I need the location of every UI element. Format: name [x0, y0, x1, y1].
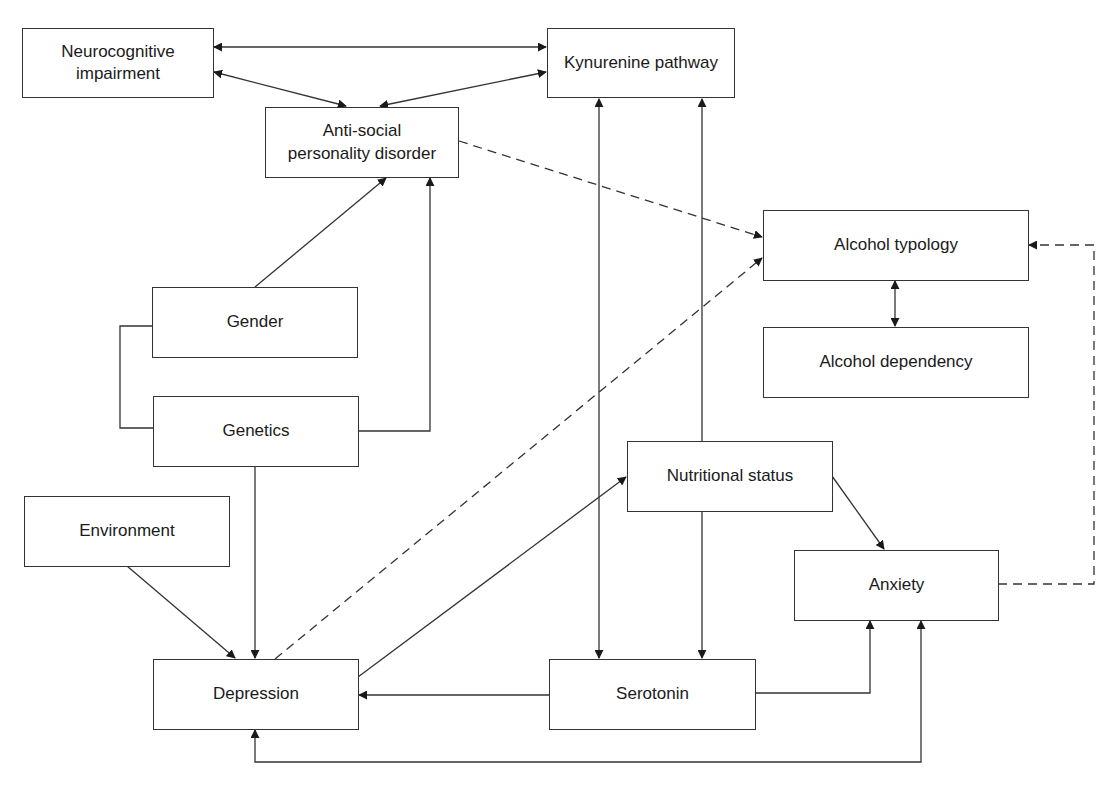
node-label: Gender [227, 311, 284, 333]
edge-anxiety-alcohol-typology [998, 245, 1094, 584]
node-label: Environment [79, 520, 174, 542]
node-depression: Depression [153, 659, 359, 730]
node-label: Nutritional status [667, 465, 794, 487]
node-environment: Environment [24, 496, 230, 567]
node-anxiety: Anxiety [794, 550, 999, 621]
node-label: Serotonin [616, 683, 689, 705]
node-label: Genetics [222, 420, 289, 442]
node-label: Neurocognitive impairment [61, 41, 174, 85]
edge-aspd-alcohol-typology [459, 141, 762, 237]
node-serotonin: Serotonin [549, 659, 756, 730]
edge-serotonin-anxiety [755, 621, 870, 693]
edge-genetics-aspd [358, 178, 430, 431]
node-anti-social-personality-disorder: Anti-social personality disorder [265, 107, 459, 178]
node-gender: Gender [152, 287, 358, 358]
node-label: Kynurenine pathway [564, 52, 718, 74]
edge-neurocognitive-aspd [214, 72, 346, 106]
node-alcohol-dependency: Alcohol dependency [763, 327, 1029, 398]
edge-environment-depression [127, 566, 235, 658]
node-label: Anxiety [869, 574, 925, 596]
edge-gender-genetics [120, 326, 153, 428]
node-label: Alcohol dependency [819, 351, 972, 373]
node-genetics: Genetics [153, 396, 359, 467]
edge-nutritional-anxiety [832, 476, 884, 549]
node-alcohol-typology: Alcohol typology [763, 210, 1029, 281]
edge-kynurenine-aspd [380, 72, 546, 106]
node-label: Alcohol typology [834, 234, 958, 256]
node-neurocognitive-impairment: Neurocognitive impairment [22, 28, 214, 98]
node-label: Depression [213, 683, 299, 705]
edge-depression-nutritional [358, 477, 626, 677]
edge-gender-aspd [255, 178, 386, 287]
node-kynurenine-pathway: Kynurenine pathway [547, 28, 735, 98]
node-nutritional-status: Nutritional status [627, 441, 833, 512]
node-label: Anti-social personality disorder [288, 120, 436, 164]
